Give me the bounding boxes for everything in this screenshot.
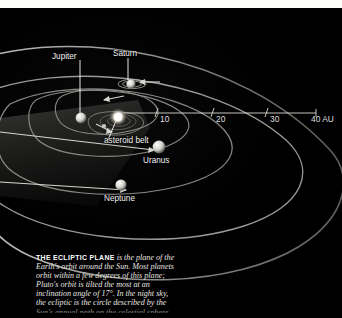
label-jupiter: Jupiter [52,52,77,61]
caption-line-clipped: Sun's annual path on the celestial spher… [36,308,188,313]
caption-lead: THE ECLIPTIC PLANE [36,254,115,261]
caption-line-3: orbit within a few degrees of this plane… [36,271,188,280]
figure-root: Jupiter Saturn asteroid belt Uranus Nept… [0,0,342,318]
sun [109,108,127,126]
caption-line-1-text: is the plane of the [117,253,175,262]
caption-block: THE ECLIPTIC PLANE is the plane of the E… [36,253,188,313]
axis-tick-10: 10 [160,114,169,124]
axis-tick-20: 20 [216,114,225,124]
planet-jupiter [76,113,87,124]
caption-line-1: THE ECLIPTIC PLANE is the plane of the [36,253,188,262]
caption-line-4: Pluto's orbit is tilted the most at an [36,280,188,289]
planet-uranus [153,141,166,154]
label-asteroid-belt: asteroid belt [104,136,149,145]
planet-inner-small [102,124,106,128]
axis-tick-40-au: 40 AU [311,114,334,124]
label-saturn: Saturn [113,49,137,58]
label-uranus: Uranus [143,156,169,165]
caption-line-2: Earth's orbit around the Sun. Most plane… [36,262,188,271]
planet-neptune [115,179,126,190]
ecliptic-plane-wedge [0,100,150,206]
planet-saturn [126,79,135,88]
caption-line-6: the ecliptic is the circle described by … [36,298,188,307]
label-neptune: Neptune [104,194,135,203]
caption-line-5: inclination angle of 17°. In the night s… [36,289,188,298]
axis-tick-30: 30 [270,114,279,124]
